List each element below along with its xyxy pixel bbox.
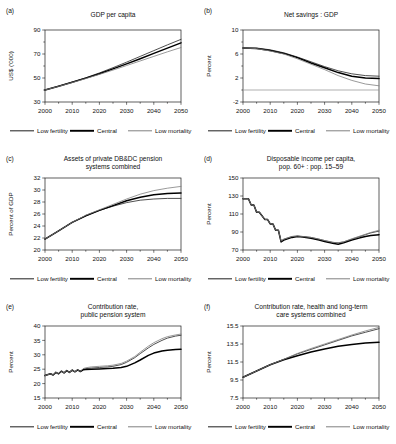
- panel-d-legend-label-low-mortality: Low mortality: [353, 275, 390, 282]
- panel-e-title-line-0: Contribution rate,: [88, 303, 139, 310]
- panel-b-xtick-5: 2050: [372, 107, 386, 114]
- panel-f-xtick-4: 2040: [345, 403, 359, 410]
- panel-a-xtick-4: 2040: [147, 107, 161, 114]
- panel-e-ylabel: Percent: [7, 351, 14, 373]
- panel-b-xtick-1: 2010: [263, 107, 277, 114]
- panel-b-xtick-3: 2030: [318, 107, 332, 114]
- panel-c-series-central: [45, 193, 181, 239]
- panel-d: (d)Disposable income per capita,pop. 60+…: [198, 148, 396, 296]
- panel-c-ytick-6: 32: [34, 174, 41, 181]
- panel-d-legend-label-central: Central: [295, 275, 315, 282]
- panel-a-series-central: [45, 43, 181, 90]
- panel-b-xtick-0: 2000: [236, 107, 250, 114]
- panel-c-legend-label-central: Central: [97, 275, 117, 282]
- panel-e-ytick-1: 20: [34, 380, 41, 387]
- panel-a-xtick-2: 2020: [93, 107, 107, 114]
- panel-d-xtick-2: 2020: [291, 255, 305, 262]
- panel-b-legend-label-low-mortality: Low mortality: [353, 127, 390, 134]
- panel-e-xtick-4: 2040: [147, 403, 161, 410]
- panel-e-xtick-1: 2010: [65, 403, 79, 410]
- panel-a-ylabel: US$ ('000): [7, 51, 14, 80]
- panel-c-title-line-0: Assets of private DB&DC pension: [64, 155, 163, 163]
- panel-c-title-line-1: systems combined: [86, 163, 141, 171]
- panel-c-label: (c): [6, 155, 14, 163]
- panel-f-xtick-5: 2050: [372, 403, 386, 410]
- panel-c-xtick-1: 2010: [65, 255, 79, 262]
- panel-a-label: (a): [6, 7, 14, 15]
- panel-e-legend-label-low-mortality: Low mortality: [155, 423, 192, 430]
- panel-b-legend-label-central: Central: [295, 127, 315, 134]
- panel-c-ytick-4: 28: [34, 198, 41, 205]
- panel-c-ytick-2: 24: [34, 222, 41, 229]
- panel-e: (e)Contribution rate,public pension syst…: [0, 296, 198, 444]
- panel-c-ytick-1: 22: [34, 234, 41, 241]
- panel-d-xtick-4: 2040: [345, 255, 359, 262]
- panel-b-legend-label-low-fertility: Low fertility: [235, 127, 267, 134]
- panel-f-legend-label-central: Central: [295, 423, 315, 430]
- panel-a-xtick-3: 2030: [120, 107, 134, 114]
- panel-b-series-low-fertility: [243, 48, 379, 76]
- panel-b-label: (b): [204, 7, 212, 15]
- panel-c-plot-frame: [45, 178, 181, 250]
- panel-f-ytick-3: 13.5: [226, 340, 239, 347]
- panel-e-ytick-2: 25: [34, 365, 41, 372]
- panel-f-legend-label-low-mortality: Low mortality: [353, 423, 390, 430]
- panel-e-ytick-0: 15: [34, 394, 41, 401]
- panel-f-xtick-0: 2000: [236, 403, 250, 410]
- panel-f-label: (f): [204, 303, 210, 311]
- panel-a-ytick-0: 30: [34, 98, 41, 105]
- panel-e-title-line-1: public pension system: [81, 311, 146, 319]
- panel-a-chart: (a)GDP per capita30507090200020102020203…: [0, 0, 198, 148]
- panel-a-xtick-0: 2000: [38, 107, 52, 114]
- panel-e-xtick-5: 2050: [174, 403, 188, 410]
- panel-d-ytick-0: 70: [232, 246, 239, 253]
- panel-b-ytick-2: 6: [235, 50, 239, 57]
- panel-f-xtick-2: 2020: [291, 403, 305, 410]
- panel-e-ytick-5: 40: [34, 322, 41, 329]
- panel-b-title-line-0: Net savings : GDP: [284, 11, 339, 19]
- panel-a-ytick-2: 70: [34, 50, 41, 57]
- panel-b-ytick-3: 10: [232, 26, 239, 33]
- figure-panel-grid: (a)GDP per capita30507090200020102020203…: [0, 0, 396, 444]
- panel-c-ytick-0: 20: [34, 246, 41, 253]
- panel-a-ytick-3: 90: [34, 26, 41, 33]
- panel-c-ylabel: Percent of GDP: [7, 192, 14, 235]
- panel-b-xtick-2: 2020: [291, 107, 305, 114]
- panel-d-ytick-2: 110: [229, 210, 239, 217]
- panel-f-ytick-1: 9.5: [230, 376, 239, 383]
- panel-c-legend-label-low-mortality: Low mortality: [155, 275, 192, 282]
- panel-d-ytick-3: 130: [228, 192, 239, 199]
- panel-c: (c)Assets of private DB&DC pensionsystem…: [0, 148, 198, 296]
- panel-f-series-low-fertility: [243, 329, 379, 378]
- panel-a-series-low-fertility: [45, 39, 181, 90]
- panel-f-plot-frame: [243, 326, 379, 398]
- panel-f-ytick-0: 7.5: [230, 394, 239, 401]
- panel-c-legend-label-low-fertility: Low fertility: [37, 275, 69, 282]
- panel-b-ylabel: Percent: [205, 55, 212, 77]
- panel-b-series-low-mortality: [243, 48, 379, 86]
- panel-e-legend-label-low-fertility: Low fertility: [37, 423, 69, 430]
- panel-d-plot-frame: [243, 178, 379, 250]
- panel-f-ytick-4: 15.5: [226, 322, 239, 329]
- panel-a-plot-frame: [45, 30, 181, 102]
- panel-a-legend-label-low-fertility: Low fertility: [37, 127, 69, 134]
- panel-b-chart: (b)Net savings : GDP-2261020002010202020…: [198, 0, 396, 148]
- panel-e-legend-label-central: Central: [97, 423, 117, 430]
- panel-e-series-low-mortality: [45, 334, 181, 375]
- panel-d-xtick-1: 2010: [263, 255, 277, 262]
- panel-f-title-line-1: care systems combined: [276, 311, 346, 319]
- panel-f-ylabel: Percent: [205, 351, 212, 373]
- panel-c-xtick-5: 2050: [174, 255, 188, 262]
- panel-f-xtick-3: 2030: [318, 403, 332, 410]
- panel-d-title-line-1: pop. 60+ : pop. 15–59: [279, 163, 344, 171]
- panel-d-xtick-3: 2030: [318, 255, 332, 262]
- panel-e-xtick-2: 2020: [93, 403, 107, 410]
- panel-a-xtick-1: 2010: [65, 107, 79, 114]
- panel-f-series-central: [243, 342, 379, 377]
- panel-a: (a)GDP per capita30507090200020102020203…: [0, 0, 198, 148]
- panel-a-ytick-1: 50: [34, 74, 41, 81]
- panel-f-xtick-1: 2010: [263, 403, 277, 410]
- panel-c-xtick-0: 2000: [38, 255, 52, 262]
- panel-e-ytick-4: 35: [34, 337, 41, 344]
- panel-e-xtick-3: 2030: [120, 403, 134, 410]
